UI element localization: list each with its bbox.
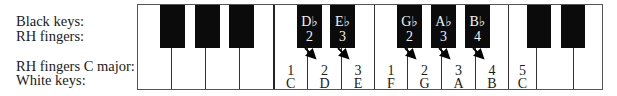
piano-keyboard: 1 C 2 D 3 E 1 F 2 G 3 A 4 B 5 C — [137, 4, 603, 90]
label-black-keys: Black keys: — [16, 14, 84, 29]
arrow-icon — [305, 48, 482, 57]
label-white-keys: White keys: — [16, 73, 86, 88]
arrows-layer — [138, 5, 604, 91]
label-rh-fingers: RH fingers: — [16, 29, 84, 44]
